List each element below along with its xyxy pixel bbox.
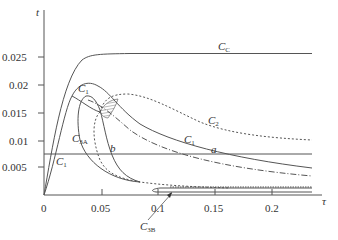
y-tick-0025: 0.025 [2,51,27,63]
label-c2: C2 [208,114,219,128]
x-axis-label: τ [322,195,327,207]
label-point-a: a [211,143,217,155]
y-tick-002: 0.02 [9,79,28,91]
label-c3a: C3A [72,132,88,146]
x-tick-0: 0 [41,202,47,214]
phase-diagram: t τ 0.025 0.02 0.015 0.01 0.005 0 0.05 0… [0,0,338,240]
label-c1-top: C1 [78,82,89,96]
y-tick-0015: 0.015 [2,107,27,119]
label-c3b: C3B [140,220,156,234]
label-c1-left: C1 [56,155,67,169]
x-tick-02: 0.2 [265,202,279,214]
curve-c1-inner [72,96,100,112]
curve-c3b [153,188,312,192]
x-tick-015: 0.15 [204,202,224,214]
y-axis-label: t [36,6,40,18]
curve-cc [44,54,312,196]
curve-dashdot [88,100,312,176]
x-tick-005: 0.05 [91,202,111,214]
y-tick-0005: 0.005 [2,161,27,173]
hatched-region [100,99,118,118]
label-c1-mid: C1 [184,133,195,147]
label-point-b: b [110,142,116,154]
label-cc: CC [218,40,230,54]
y-tick-001: 0.01 [9,135,28,147]
